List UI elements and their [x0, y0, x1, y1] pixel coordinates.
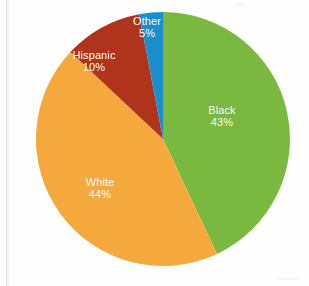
pie-chart: Black 43% White 44% Hispanic 10% Other 5…	[0, 0, 309, 286]
chart-page: Black 43% White 44% Hispanic 10% Other 5…	[0, 0, 309, 286]
pie-chart-svg	[0, 0, 309, 286]
